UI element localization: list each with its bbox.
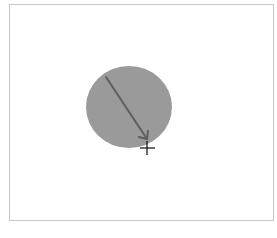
canvas-layer (0, 0, 277, 238)
circle-shape[interactable] (86, 66, 172, 148)
